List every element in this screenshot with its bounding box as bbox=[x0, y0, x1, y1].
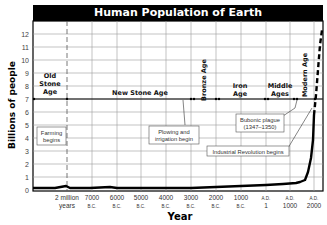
svg-text:New Stone Age: New Stone Age bbox=[112, 89, 168, 97]
x-tick-labels: 2 million years 7000 B.C. 6000 B.C. 5000… bbox=[55, 194, 322, 210]
svg-text:2000: 2000 bbox=[209, 194, 224, 201]
annotation-plague: Bubonic plague (1347–1350) bbox=[236, 114, 284, 132]
svg-text:B.C.: B.C. bbox=[212, 204, 221, 209]
svg-text:9: 9 bbox=[25, 70, 29, 77]
svg-text:Iron: Iron bbox=[233, 82, 248, 90]
svg-text:3000: 3000 bbox=[184, 194, 199, 201]
svg-text:years: years bbox=[59, 202, 76, 210]
svg-text:6: 6 bbox=[25, 109, 29, 116]
svg-text:4000: 4000 bbox=[159, 194, 174, 201]
annotation-farming: Farming begins bbox=[37, 127, 66, 145]
svg-text:Industrial Revolution begins: Industrial Revolution begins bbox=[212, 149, 283, 155]
svg-text:1: 1 bbox=[25, 174, 29, 181]
svg-text:Old: Old bbox=[44, 72, 57, 80]
svg-text:Stone: Stone bbox=[39, 80, 61, 88]
svg-text:12: 12 bbox=[21, 31, 29, 38]
svg-text:A.D.: A.D. bbox=[262, 196, 271, 201]
population-chart: Human Population of Earth Billions of pe… bbox=[0, 0, 327, 225]
svg-text:0: 0 bbox=[25, 187, 29, 194]
svg-text:B.C.: B.C. bbox=[162, 204, 171, 209]
svg-text:7000: 7000 bbox=[85, 194, 100, 201]
svg-text:6000: 6000 bbox=[110, 194, 125, 201]
svg-text:B.C.: B.C. bbox=[113, 204, 122, 209]
svg-text:Age: Age bbox=[43, 88, 58, 96]
svg-text:Bubonic plague: Bubonic plague bbox=[240, 117, 280, 123]
svg-text:Plowing and: Plowing and bbox=[158, 129, 190, 135]
svg-text:5000: 5000 bbox=[134, 194, 149, 201]
svg-text:Bronze Age: Bronze Age bbox=[200, 59, 208, 101]
svg-text:A.D.: A.D. bbox=[310, 196, 319, 201]
svg-text:1: 1 bbox=[264, 202, 268, 209]
svg-text:2 million: 2 million bbox=[55, 194, 79, 201]
chart-svg: 0 1 2 3 4 5 6 7 8 9 10 11 12 2 million y… bbox=[0, 0, 327, 225]
svg-text:8: 8 bbox=[25, 83, 29, 90]
svg-text:B.C.: B.C. bbox=[88, 204, 97, 209]
svg-text:Age: Age bbox=[233, 90, 248, 98]
svg-text:A.D.: A.D. bbox=[286, 196, 295, 201]
svg-text:B.C.: B.C. bbox=[237, 204, 246, 209]
svg-text:1000: 1000 bbox=[234, 194, 249, 201]
svg-text:Ages: Ages bbox=[271, 90, 289, 98]
svg-text:Middle: Middle bbox=[268, 82, 293, 90]
plot-area bbox=[33, 21, 323, 191]
svg-text:7: 7 bbox=[25, 96, 29, 103]
svg-text:4: 4 bbox=[25, 135, 29, 142]
annotation-plowing: Plowing and irrigation begin bbox=[149, 126, 199, 144]
svg-text:begins: begins bbox=[43, 137, 60, 143]
svg-text:B.C.: B.C. bbox=[137, 204, 146, 209]
svg-text:2000: 2000 bbox=[307, 202, 322, 209]
y-tick-labels: 0 1 2 3 4 5 6 7 8 9 10 11 12 bbox=[21, 31, 29, 194]
svg-text:irrigation begin: irrigation begin bbox=[155, 136, 193, 142]
svg-text:10: 10 bbox=[21, 57, 29, 64]
svg-text:2: 2 bbox=[25, 161, 29, 168]
svg-text:1000: 1000 bbox=[283, 202, 298, 209]
svg-text:11: 11 bbox=[22, 44, 29, 51]
svg-text:(1347–1350): (1347–1350) bbox=[244, 124, 277, 130]
annotation-industrial: Industrial Revolution begins bbox=[207, 146, 289, 156]
svg-text:3: 3 bbox=[25, 148, 29, 155]
svg-text:Farming: Farming bbox=[41, 130, 62, 136]
svg-text:B.C.: B.C. bbox=[187, 204, 196, 209]
svg-text:Modern Age: Modern Age bbox=[301, 52, 309, 97]
svg-text:5: 5 bbox=[25, 122, 29, 129]
